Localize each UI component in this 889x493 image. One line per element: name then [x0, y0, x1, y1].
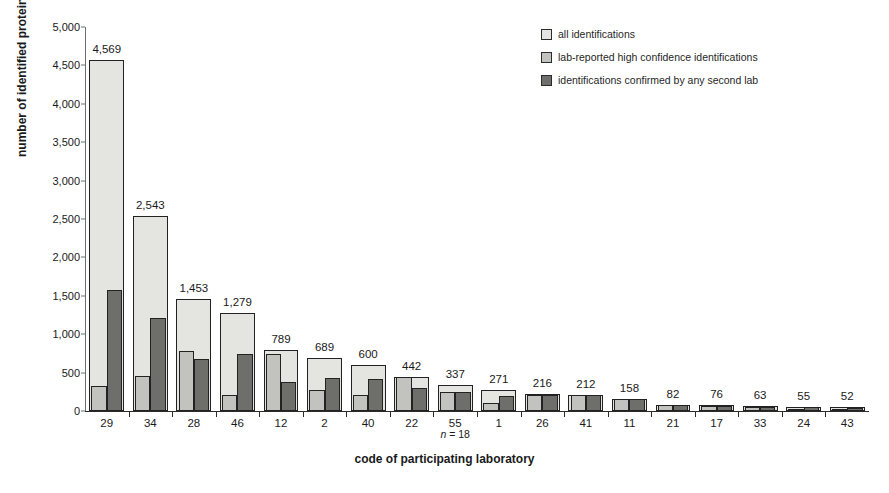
bar-value-label: 52 [841, 390, 854, 402]
x-axis-tick-label: 24 [797, 417, 810, 429]
bar-high-confidence [483, 403, 498, 411]
bar-high-confidence [614, 399, 629, 411]
y-axis-tick-label: 3,500 [52, 136, 80, 148]
x-axis-tick-label: 40 [362, 417, 375, 429]
x-axis-tick-label: 21 [667, 417, 680, 429]
x-axis-tick-label: 34 [144, 417, 157, 429]
bar-group [216, 27, 260, 411]
x-axis-tick-mark [433, 411, 434, 417]
y-axis-tick-label: 1,500 [52, 290, 80, 302]
bar-value-label: 2,543 [136, 199, 165, 211]
bar-group [303, 27, 347, 411]
bar-high-confidence [309, 390, 324, 411]
bar-group [259, 27, 303, 411]
bar-chart: all identifications lab-reported high co… [0, 0, 889, 493]
bar-second-lab-confirmed [368, 379, 383, 411]
x-axis-tick-label: 2 [321, 417, 327, 429]
x-axis-tick-label: 22 [405, 417, 418, 429]
bar-high-confidence [266, 354, 281, 411]
bar-group [695, 27, 739, 411]
x-axis-tick-label: 55 [449, 417, 462, 429]
bar-value-label: 82 [667, 388, 680, 400]
y-axis-tick-label: 3,000 [52, 175, 80, 187]
x-axis-tick-mark [521, 411, 522, 417]
bar-high-confidence [91, 386, 106, 411]
bar-second-lab-confirmed [325, 378, 340, 411]
x-axis-tick-label: 26 [536, 417, 549, 429]
y-axis-title: number of identified proteins [15, 0, 29, 157]
bar-group [85, 27, 129, 411]
x-axis-tick-label: 33 [754, 417, 767, 429]
bar-value-label: 442 [402, 360, 421, 372]
bar-group [651, 27, 695, 411]
x-axis-tick-mark [172, 411, 173, 417]
x-axis-tick-label: 46 [231, 417, 244, 429]
y-axis-tick-label: 5,000 [52, 21, 80, 33]
x-axis-title: code of participating laboratory [0, 452, 889, 466]
x-axis-tick-mark [216, 411, 217, 417]
x-axis-tick-label: 11 [623, 417, 635, 429]
y-axis-tick-label: 4,500 [52, 59, 80, 71]
y-axis-tick-label: 2,000 [52, 251, 80, 263]
x-axis-tick-mark [651, 411, 652, 417]
bar-second-lab-confirmed [673, 405, 688, 411]
x-axis-tick-mark [608, 411, 609, 417]
bar-group [433, 27, 477, 411]
x-axis-tick-mark [738, 411, 739, 417]
bar-high-confidence [179, 351, 194, 411]
bar-second-lab-confirmed [455, 392, 470, 411]
y-axis-tick-label: 4,000 [52, 98, 80, 110]
bar-value-label: 55 [797, 390, 810, 402]
bar-value-label: 689 [315, 341, 334, 353]
bar-second-lab-confirmed [717, 406, 732, 411]
bar-value-label: 337 [446, 368, 465, 380]
bar-high-confidence [135, 376, 150, 411]
x-axis-tick-mark [695, 411, 696, 417]
bar-group [564, 27, 608, 411]
bar-value-label: 212 [576, 378, 595, 390]
x-axis-tick-label: 28 [187, 417, 200, 429]
y-axis-tick-label: 0 [74, 405, 80, 417]
bar-group [521, 27, 565, 411]
x-axis-tick-label: 12 [275, 417, 288, 429]
x-axis-tick-mark [390, 411, 391, 417]
x-axis-tick-label: 1 [496, 417, 502, 429]
bar-high-confidence [571, 395, 586, 411]
bar-second-lab-confirmed [847, 408, 862, 411]
bar-group [172, 27, 216, 411]
bar-high-confidence [658, 405, 673, 411]
bar-group [129, 27, 173, 411]
bar-second-lab-confirmed [499, 396, 514, 411]
bar-high-confidence [527, 395, 542, 411]
x-axis-tick-mark [782, 411, 783, 417]
bar-value-label: 63 [754, 389, 767, 401]
bar-high-confidence [832, 409, 847, 411]
x-axis-tick-mark [129, 411, 130, 417]
bar-group [738, 27, 782, 411]
bar-second-lab-confirmed [194, 359, 209, 411]
x-axis-tick-label: 29 [100, 417, 113, 429]
bar-value-label: 789 [271, 333, 290, 345]
plot-area: 05001,0001,5002,0002,5003,0003,5004,0004… [85, 27, 869, 411]
x-axis-tick-mark [303, 411, 304, 417]
bar-high-confidence [396, 377, 411, 411]
bar-group [608, 27, 652, 411]
bar-high-confidence [353, 395, 368, 411]
bar-value-label: 216 [533, 377, 552, 389]
x-axis-tick-label: 17 [710, 417, 723, 429]
x-axis-tick-mark [477, 411, 478, 417]
bar-group [825, 27, 869, 411]
x-axis-tick-mark [564, 411, 565, 417]
sample-size-symbol: n [440, 428, 446, 440]
bar-second-lab-confirmed [760, 407, 775, 411]
bar-value-label: 271 [489, 373, 508, 385]
x-axis-tick-label: 41 [579, 417, 592, 429]
bar-group [390, 27, 434, 411]
bar-second-lab-confirmed [150, 318, 165, 411]
bar-value-label: 1,279 [223, 296, 252, 308]
bar-value-label: 1,453 [179, 282, 208, 294]
y-axis-title-wrap: number of identified proteins [18, 27, 38, 412]
y-axis-tick-label: 2,500 [52, 213, 80, 225]
bar-high-confidence [788, 409, 803, 411]
x-axis-tick-label: 43 [841, 417, 854, 429]
